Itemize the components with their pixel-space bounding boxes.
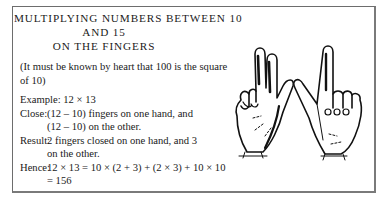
note-line-2: of 10) bbox=[20, 74, 240, 88]
hence-line-1: 12 × 13 = 10 × (2 + 3) + (2 × 3) + 10 × … bbox=[47, 161, 225, 175]
title-line-2: AND 15 bbox=[14, 26, 194, 40]
close-line-1: (12 – 10) fingers on one hand, and bbox=[47, 107, 193, 121]
hence-row: Hence: 12 × 13 = 10 × (2 + 3) + (2 × 3) … bbox=[20, 161, 240, 175]
result-line-2: on the other. bbox=[20, 147, 240, 161]
result-row: Result: 2 fingers closed on one hand, an… bbox=[20, 134, 240, 148]
hence-line-2: = 156 bbox=[20, 174, 240, 188]
hence-label: Hence: bbox=[20, 161, 47, 175]
example-row: Example: 12 × 13 bbox=[20, 93, 240, 107]
close-line-2: (12 – 10) on the other. bbox=[20, 120, 240, 134]
close-row: Close: (12 – 10) fingers on one hand, an… bbox=[20, 107, 240, 121]
title-line-3: ON THE FINGERS bbox=[14, 40, 194, 54]
hand-two-fingers-up-icon bbox=[236, 48, 293, 158]
hand-one-finger-up-icon bbox=[294, 46, 361, 160]
example-label: Example: bbox=[20, 93, 61, 107]
result-line-1: 2 fingers closed on one hand, and 3 bbox=[47, 134, 197, 148]
title-line-1: MULTIPLYING NUMBERS BETWEEN 10 bbox=[14, 12, 194, 26]
hands-illustration bbox=[225, 44, 375, 174]
page-title: MULTIPLYING NUMBERS BETWEEN 10 AND 15 ON… bbox=[14, 12, 194, 53]
close-label: Close: bbox=[20, 107, 47, 121]
result-label: Result: bbox=[20, 134, 47, 148]
example-value: 12 × 13 bbox=[63, 93, 95, 107]
explanation-body: (It must be known by heart that 100 is t… bbox=[20, 60, 240, 188]
note-line-1: (It must be known by heart that 100 is t… bbox=[20, 60, 240, 74]
